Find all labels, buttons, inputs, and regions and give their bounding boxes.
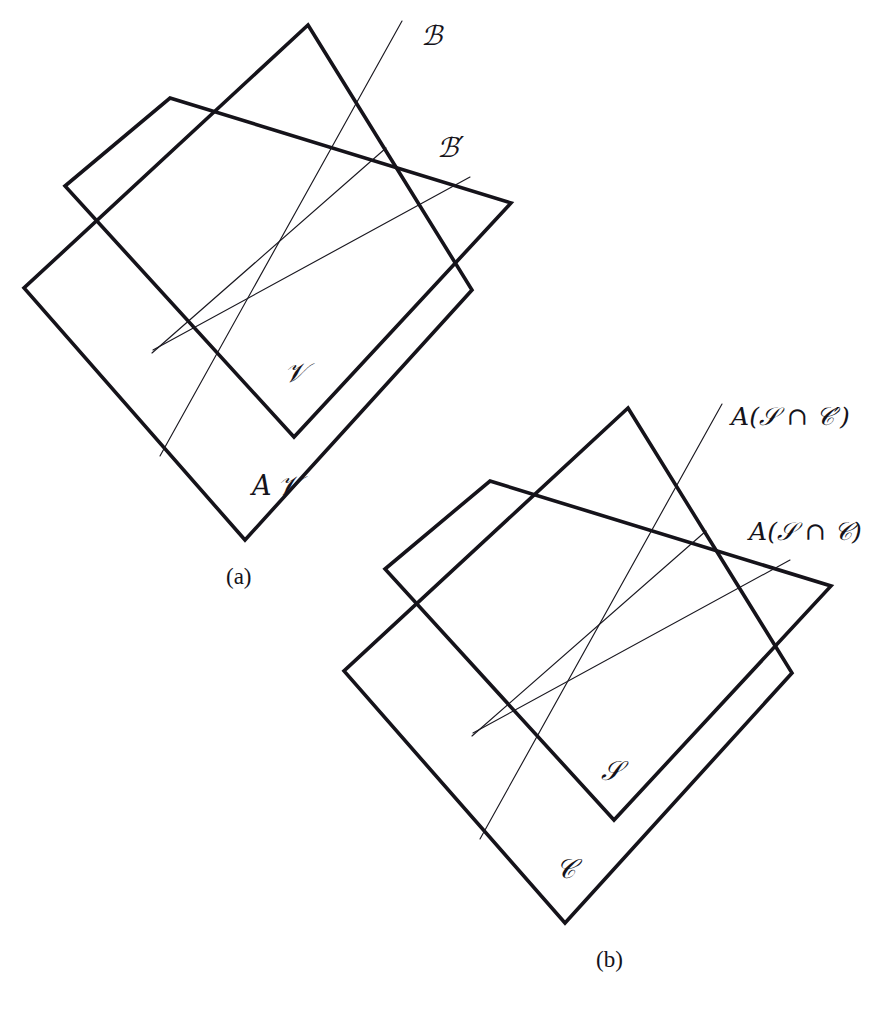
panel-b-ray-diagonal <box>472 531 706 736</box>
panel-a <box>24 21 511 540</box>
panel-a-ray-diagonal <box>152 148 386 353</box>
panel-a-ray-B-prime <box>153 177 470 350</box>
panel-a-outer-plane-AV <box>24 25 472 540</box>
panel-b-caption: (b) <box>596 948 623 971</box>
panel-b-label-outer-plane-C: 𝒞 <box>556 855 576 882</box>
geometry-figure <box>0 0 870 1011</box>
panel-a-label-ray-B: ℬ <box>421 22 442 49</box>
panel-b-outer-plane-C <box>344 408 792 923</box>
panel-b-label-ray-A-S-cap-C-prime: A(𝒮 ∩ 𝒞′) <box>731 404 850 429</box>
panel-a-label-outer-plane-AV: A 𝒱 <box>252 472 299 499</box>
panel-a-caption: (a) <box>226 565 252 588</box>
panel-b <box>344 404 831 923</box>
panel-a-label-ray-B-prime: ℬ′ <box>437 134 464 161</box>
panel-b-ray-A-S-cap-C <box>473 560 790 733</box>
panel-a-ray-B <box>160 21 402 456</box>
panel-a-label-inner-plane-V: 𝒱 <box>284 359 306 386</box>
panel-b-label-inner-plane-S: 𝒮 <box>601 757 622 784</box>
panel-b-label-ray-A-S-cap-C: A(𝒮 ∩ 𝒞) <box>749 519 862 544</box>
